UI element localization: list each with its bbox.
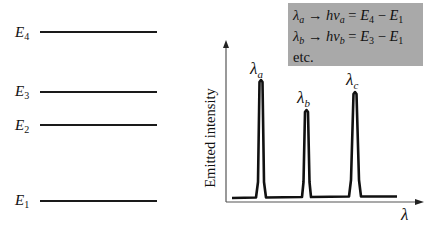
x-axis-label: λ — [401, 205, 408, 225]
peak-label-lambda-a: λa — [250, 60, 263, 83]
peak-label-lambda-b: λb — [297, 89, 310, 112]
transition-equations-box: λa → hνa = E4 − E1 λb → hνb = E3 − E1 et… — [288, 3, 423, 66]
y-axis-arrow-icon — [223, 40, 229, 48]
equation-line-etc: etc. — [293, 49, 423, 66]
peak-label-lambda-c: λc — [346, 71, 358, 94]
spectrum-trace — [232, 80, 397, 198]
x-axis-arrow-icon — [415, 199, 424, 205]
equation-line-a: λa → hνa = E4 − E1 — [293, 7, 423, 28]
y-axis-label: Emitted intensity — [202, 88, 219, 187]
equation-line-b: λb → hνb = E3 − E1 — [293, 28, 423, 49]
